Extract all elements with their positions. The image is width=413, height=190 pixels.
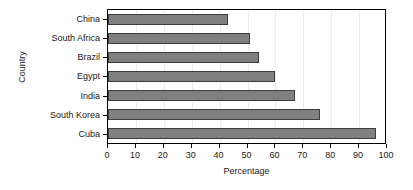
bar <box>108 90 295 101</box>
x-tick-mark <box>330 144 331 148</box>
y-tick-label: Cuba <box>12 125 104 144</box>
bar <box>108 52 259 63</box>
x-tick-mark <box>191 144 192 148</box>
bar <box>108 14 228 25</box>
x-tick-mark <box>247 144 248 148</box>
x-tick-mark <box>107 144 108 148</box>
x-tick-mark <box>358 144 359 148</box>
bar <box>108 109 320 120</box>
y-tick-label: South Korea <box>12 105 104 124</box>
y-tick-label: China <box>12 9 104 28</box>
x-tick-label: 70 <box>297 150 307 160</box>
bar <box>108 33 250 44</box>
x-tick-label: 50 <box>241 150 251 160</box>
x-tick-label: 60 <box>269 150 279 160</box>
x-tick-label: 0 <box>104 150 109 160</box>
x-tick-mark <box>386 144 387 148</box>
x-axis-tick-marks <box>107 144 386 149</box>
bar <box>108 128 376 139</box>
bar-row <box>108 48 385 67</box>
x-tick-mark <box>163 144 164 148</box>
x-tick-label: 80 <box>325 150 335 160</box>
x-tick-mark <box>219 144 220 148</box>
x-axis-tick-labels: 0102030405060708090100 <box>107 150 386 162</box>
plot-area <box>107 9 386 144</box>
x-tick-label: 40 <box>214 150 224 160</box>
x-tick-label: 30 <box>186 150 196 160</box>
bar-row <box>108 10 385 29</box>
bar-row <box>108 67 385 86</box>
x-tick-label: 90 <box>353 150 363 160</box>
bar-row <box>108 29 385 48</box>
y-tick-label: India <box>12 86 104 105</box>
x-tick-mark <box>135 144 136 148</box>
x-tick-mark <box>274 144 275 148</box>
bar-series <box>108 10 385 143</box>
bar-row <box>108 105 385 124</box>
x-tick-mark <box>302 144 303 148</box>
y-tick-label: Brazil <box>12 48 104 67</box>
y-tick-label: Egypt <box>12 67 104 86</box>
x-tick-label: 10 <box>130 150 140 160</box>
x-axis-title: Percentage <box>107 166 386 176</box>
y-axis-tick-labels: China South Africa Brazil Egypt India So… <box>12 9 104 144</box>
bar <box>108 71 275 82</box>
bar-chart: Country China South Africa Brazil Egypt … <box>0 0 413 190</box>
y-tick-label: South Africa <box>12 28 104 47</box>
bar-row <box>108 86 385 105</box>
x-tick-label: 20 <box>158 150 168 160</box>
bar-row <box>108 124 385 143</box>
x-tick-label: 100 <box>378 150 393 160</box>
